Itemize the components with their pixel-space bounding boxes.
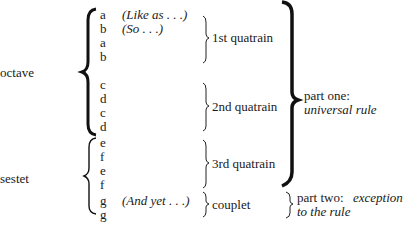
rhyme-letter: c [100, 78, 106, 92]
rhyme-letter: c [100, 106, 106, 120]
sestet-label: sestet [0, 172, 29, 186]
rhyme-letter: b [100, 50, 107, 64]
rhyme-letter: g [100, 194, 107, 208]
q3-brace [203, 140, 209, 188]
part-one-desc: universal rule [304, 103, 377, 117]
rhyme-letter: a [100, 8, 106, 22]
part-one-label: part one: [304, 89, 350, 103]
rhyme-letter: e [100, 136, 106, 150]
group-q3: 3rd quatrain [212, 157, 275, 171]
sestet-brace [84, 138, 96, 214]
part-two-desc-2: to the rule [297, 205, 350, 219]
rhyme-letter: f [100, 178, 104, 192]
rhyme-letter: b [100, 22, 107, 36]
line-note: (And yet . . .) [122, 194, 190, 208]
part-one-brace [282, 2, 298, 186]
rhyme-letter: e [100, 164, 106, 178]
part-two-brace [286, 192, 293, 218]
q2-brace [203, 83, 209, 131]
octave-brace [82, 9, 96, 135]
group-q2: 2nd quatrain [212, 100, 277, 114]
part-two-label: part two: [297, 191, 344, 205]
line-note: (Like as . . .) [122, 8, 187, 22]
rhyme-letter: g [100, 208, 107, 222]
q1-brace [203, 16, 209, 63]
rhyme-letter: a [100, 36, 106, 50]
line-note: (So . . .) [122, 22, 163, 36]
rhyme-letter: d [100, 120, 107, 134]
part-two-desc-1: exception [353, 191, 403, 205]
octave-label: octave [0, 66, 34, 80]
group-q1: 1st quatrain [212, 31, 273, 45]
brackets [0, 0, 405, 236]
rhyme-letter: d [100, 92, 107, 106]
couplet-brace [203, 192, 209, 217]
group-couplet: couplet [212, 198, 250, 212]
rhyme-letter: f [100, 150, 104, 164]
